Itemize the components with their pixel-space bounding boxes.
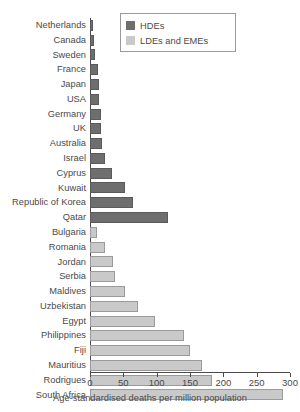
bar-row (90, 210, 290, 225)
y-label-philippines: Philippines (0, 328, 86, 343)
y-label-australia: Australia (0, 136, 86, 151)
y-label-uk: UK (0, 121, 86, 136)
y-label-uzbekistan: Uzbekistan (0, 299, 86, 314)
x-tick-label: 0 (87, 377, 92, 388)
y-label-israel: Israel (0, 151, 86, 166)
bar-row (90, 255, 290, 270)
bar-row (90, 121, 290, 136)
y-label-sweden: Sweden (0, 48, 86, 63)
bar-germany (90, 109, 101, 120)
bar-row (90, 284, 290, 299)
x-tick-label: 100 (149, 377, 165, 388)
bar-row (90, 328, 290, 343)
y-label-kuwait: Kuwait (0, 181, 86, 196)
bar-row (90, 77, 290, 92)
bar-netherlands (90, 20, 93, 31)
bar-row (90, 225, 290, 240)
bar-qatar (90, 212, 168, 223)
bar-row (90, 62, 290, 77)
bar-uzbekistan (90, 301, 138, 312)
bar-egypt (90, 316, 155, 327)
bar-row (90, 343, 290, 358)
clipped-header-text (0, 0, 300, 3)
y-label-usa: USA (0, 92, 86, 107)
y-label-canada: Canada (0, 33, 86, 48)
legend-label-hdes: HDEs (140, 21, 164, 31)
y-label-japan: Japan (0, 77, 86, 92)
bar-row (90, 314, 290, 329)
bar-bulgaria (90, 227, 97, 238)
bar-usa (90, 94, 99, 105)
x-tick-label: 250 (249, 377, 265, 388)
y-label-bulgaria: Bulgaria (0, 225, 86, 240)
x-tick-label: 300 (282, 377, 298, 388)
y-label-qatar: Qatar (0, 210, 86, 225)
y-label-rodrigues: Rodrigues (0, 373, 86, 388)
y-label-netherlands: Netherlands (0, 18, 86, 33)
y-label-maldives: Maldives (0, 284, 86, 299)
legend-swatch-hdes (126, 21, 135, 30)
bar-row (90, 195, 290, 210)
bar-france (90, 64, 98, 75)
bar-australia (90, 138, 102, 149)
y-label-fiji: Fiji (0, 343, 86, 358)
x-axis-title: Age-standardised deaths per million popu… (0, 393, 300, 403)
bar-mauritius (90, 360, 202, 371)
bar-republic-of-korea (90, 197, 133, 208)
bar-chart: NetherlandsCanadaSwedenFranceJapanUSAGer… (0, 0, 300, 412)
y-axis-category-labels: NetherlandsCanadaSwedenFranceJapanUSAGer… (0, 18, 86, 373)
bar-canada (90, 35, 94, 46)
bar-row (90, 166, 290, 181)
y-label-serbia: Serbia (0, 269, 86, 284)
bar-jordan (90, 256, 113, 267)
bar-fiji (90, 345, 190, 356)
bar-kuwait (90, 182, 125, 193)
chart-legend: HDEs LDEs and EMEs (120, 13, 236, 52)
bar-row (90, 240, 290, 255)
x-axis-ticks: 050100150200250300 (90, 373, 290, 389)
bar-maldives (90, 286, 125, 297)
y-label-france: France (0, 62, 86, 77)
bar-row (90, 92, 290, 107)
bar-row (90, 136, 290, 151)
bar-row (90, 151, 290, 166)
legend-label-ldes-emes: LDEs and EMEs (140, 36, 208, 46)
bar-japan (90, 79, 99, 90)
y-label-egypt: Egypt (0, 314, 86, 329)
y-label-germany: Germany (0, 107, 86, 122)
bar-row (90, 107, 290, 122)
y-label-republic-of-korea: Republic of Korea (0, 195, 86, 210)
x-tick-label: 150 (182, 377, 198, 388)
y-label-romania: Romania (0, 240, 86, 255)
bar-israel (90, 153, 105, 164)
legend-item-hdes: HDEs (126, 18, 230, 33)
bar-row (90, 358, 290, 373)
plot-area (90, 18, 290, 373)
bar-philippines (90, 330, 184, 341)
x-tick-label: 200 (215, 377, 231, 388)
bar-uk (90, 123, 101, 134)
bar-row (90, 269, 290, 284)
x-tick-label: 50 (118, 377, 129, 388)
bar-row (90, 299, 290, 314)
legend-item-ldes-emes: LDEs and EMEs (126, 33, 230, 48)
bar-sweden (90, 49, 95, 60)
y-label-cyprus: Cyprus (0, 166, 86, 181)
bar-serbia (90, 271, 115, 282)
bar-row (90, 181, 290, 196)
legend-swatch-ldes-emes (126, 36, 135, 45)
y-label-jordan: Jordan (0, 255, 86, 270)
bar-romania (90, 242, 105, 253)
bar-cyprus (90, 168, 112, 179)
y-label-mauritius: Mauritius (0, 358, 86, 373)
